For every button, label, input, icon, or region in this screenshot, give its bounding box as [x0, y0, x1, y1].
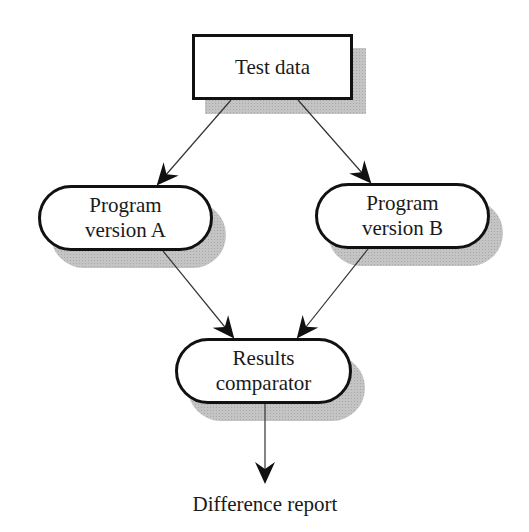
node-program-a-line1: Program — [89, 193, 161, 218]
edge-a-to-comparator — [163, 251, 233, 337]
edge-test-to-b — [298, 100, 370, 182]
edge-b-to-comparator — [298, 249, 368, 337]
node-program-b-line2: version B — [362, 216, 443, 241]
node-program-b: Program version B — [315, 183, 490, 249]
node-comparator-line2: comparator — [216, 371, 312, 396]
node-comparator-line1: Results — [233, 346, 295, 371]
node-test-data-label: Test data — [235, 55, 310, 80]
difference-report-label: Difference report — [165, 492, 365, 517]
node-test-data: Test data — [192, 34, 353, 100]
node-program-a: Program version A — [38, 185, 213, 251]
edge-test-to-a — [158, 100, 231, 184]
node-results-comparator: Results comparator — [175, 338, 352, 404]
node-program-b-line1: Program — [366, 191, 438, 216]
node-program-a-line2: version A — [85, 218, 166, 243]
